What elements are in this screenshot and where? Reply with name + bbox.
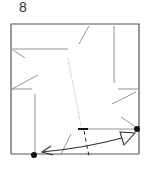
reference-point-bottom-left [31, 152, 37, 158]
origami-diagram [0, 0, 145, 169]
mountain-fold-line [84, 131, 89, 156]
valley-fold-line [68, 58, 81, 126]
crease-lines [12, 26, 138, 154]
reference-point-right [134, 126, 140, 132]
